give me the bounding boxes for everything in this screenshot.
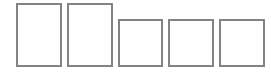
square-box-1[interactable]	[118, 19, 163, 67]
portrait-box-1[interactable]	[16, 3, 62, 67]
portrait-box-2[interactable]	[67, 3, 113, 67]
square-box-3[interactable]	[219, 19, 265, 67]
square-box-2[interactable]	[168, 19, 214, 67]
